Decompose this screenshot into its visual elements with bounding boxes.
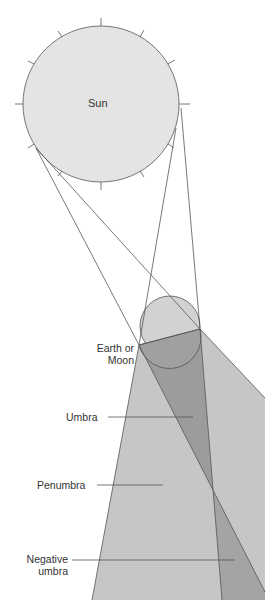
earth-moon-label: Earth or Moon	[86, 342, 134, 366]
shadow-diagram	[0, 0, 279, 610]
earth-label-line1: Earth or	[86, 342, 134, 354]
umbra-label: Umbra	[66, 411, 98, 423]
sun-label: Sun	[88, 97, 108, 109]
earth-label-line2: Moon	[86, 354, 134, 366]
negative-umbra-label: Negative umbra	[18, 553, 68, 577]
penumbra-label: Penumbra	[37, 479, 85, 491]
negative-label-line2: umbra	[18, 565, 68, 577]
negative-label-line1: Negative	[18, 553, 68, 565]
